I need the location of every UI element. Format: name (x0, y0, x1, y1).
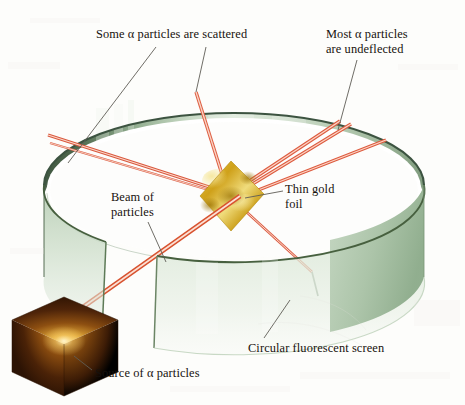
label-some-particles-scattered: Some α particles are scattered (96, 27, 247, 42)
label-circular-fluorescent-screen: Circular fluorescent screen (248, 341, 384, 356)
label-beam-line2: particles (111, 205, 154, 219)
scene-svg (0, 0, 465, 405)
label-most-particles-undeflected: Most α particles are undeflected (326, 27, 408, 56)
label-beam-line1: Beam of (111, 190, 154, 204)
label-undeflected-line2: are undeflected (326, 42, 404, 56)
leader-scattered-b (196, 47, 206, 92)
label-thin-gold-foil: Thin gold foil (285, 182, 334, 211)
leader-undeflected (338, 60, 357, 130)
label-goldfoil-line1: Thin gold (285, 182, 334, 196)
label-source-of-alpha-particles: Source of α particles (95, 366, 200, 381)
label-undeflected-line1: Most α particles (326, 27, 408, 41)
label-beam-of-particles: Beam of particles (111, 190, 154, 219)
label-goldfoil-line2: foil (285, 197, 303, 211)
rutherford-experiment-figure: Some α particles are scattered Most α pa… (0, 0, 465, 405)
